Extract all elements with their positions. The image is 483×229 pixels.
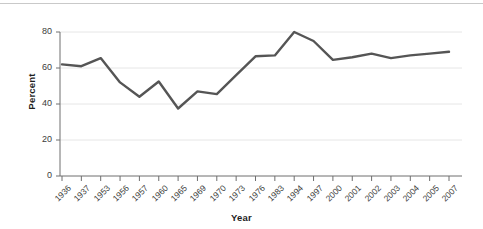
- chart-screenshot: Percent 020406080 1936193719531956195719…: [0, 0, 483, 229]
- data-line-percent: [62, 32, 449, 109]
- y-tick-label: 40: [30, 98, 52, 108]
- line-chart-figure: Percent 020406080 1936193719531956195719…: [0, 0, 483, 229]
- y-tick-label: 20: [30, 134, 52, 144]
- x-axis-title: Year: [0, 212, 483, 223]
- y-tick-label: 0: [30, 170, 52, 180]
- y-tick-label: 80: [30, 26, 52, 36]
- y-tick-label: 60: [30, 62, 52, 72]
